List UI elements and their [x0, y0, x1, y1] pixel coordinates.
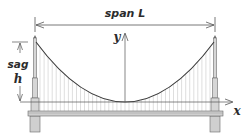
span-label: span L [105, 7, 146, 20]
right-tower [210, 35, 220, 132]
suspension-bridge-diagram: span L x y sag h [0, 0, 250, 140]
sag-label: sag [8, 58, 29, 70]
left-tower [30, 35, 40, 132]
sag-symbol: h [14, 72, 23, 86]
x-axis-label: x [232, 104, 241, 118]
y-axis [122, 33, 128, 102]
y-axis-label: y [113, 30, 122, 44]
bridge-deck [28, 111, 223, 116]
